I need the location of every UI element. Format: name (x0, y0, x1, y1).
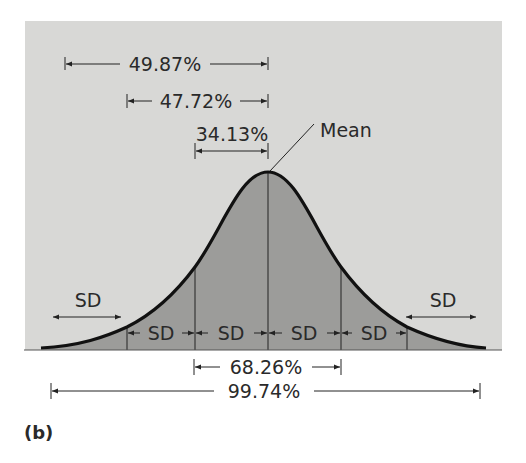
bracket-68-26: 68.26% (194, 356, 341, 378)
label-34-13: 34.13% (196, 123, 268, 145)
svg-text:SD: SD (361, 322, 388, 344)
svg-text:SD: SD (75, 289, 102, 311)
label-68-26: 68.26% (230, 356, 302, 378)
label-99-74: 99.74% (228, 380, 300, 402)
svg-text:SD: SD (430, 289, 457, 311)
panel-label: (b) (24, 422, 53, 443)
mean-label: Mean (320, 119, 372, 141)
svg-text:SD: SD (291, 322, 318, 344)
normal-distribution-figure: Mean 49.87% 47.72% 34.13% SD SD SD (0, 0, 526, 463)
label-47-72: 47.72% (160, 90, 232, 112)
svg-text:SD: SD (148, 322, 175, 344)
label-49-87: 49.87% (129, 53, 201, 75)
bracket-99-74: 99.74% (51, 380, 480, 402)
svg-text:SD: SD (218, 322, 245, 344)
